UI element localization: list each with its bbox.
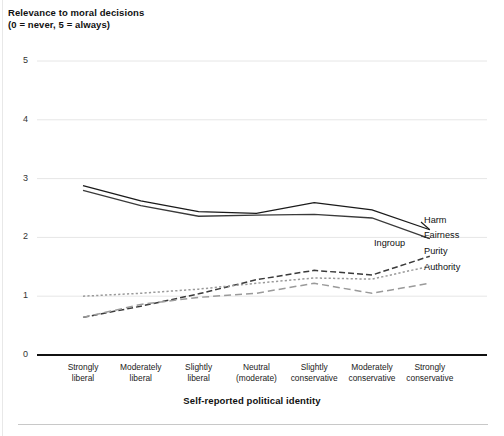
x-axis-tick-line: Strongly bbox=[391, 362, 469, 373]
footer-rule bbox=[18, 424, 488, 425]
series-label-purity: Purity bbox=[424, 246, 448, 256]
series-label-ingroup: Ingroup bbox=[374, 238, 405, 248]
x-axis-tick-line: conservative bbox=[391, 373, 469, 384]
series-line-fairness bbox=[83, 190, 430, 238]
chart-canvas: Relevance to moral decisions (0 = never,… bbox=[0, 0, 504, 436]
series-lines-group bbox=[83, 186, 430, 318]
y-axis-tick-label: 0 bbox=[14, 349, 28, 359]
gridlines-group bbox=[37, 61, 487, 355]
series-label-fairness: Fairness bbox=[424, 230, 459, 240]
series-line-authority bbox=[83, 283, 430, 317]
y-axis-tick-label: 4 bbox=[14, 114, 28, 124]
series-line-ingroup bbox=[83, 256, 430, 317]
series-label-authority: Authority bbox=[424, 262, 460, 272]
y-axis-tick-label: 3 bbox=[14, 173, 28, 183]
y-axis-tick-label: 2 bbox=[14, 231, 28, 241]
series-line-harm bbox=[83, 186, 430, 230]
x-axis-tick-label: Stronglyconservative bbox=[391, 362, 469, 383]
x-axis-title: Self-reported political identity bbox=[0, 395, 504, 406]
series-label-harm: Harm bbox=[424, 215, 446, 225]
y-axis-tick-label: 5 bbox=[14, 55, 28, 65]
y-axis-tick-label: 1 bbox=[14, 290, 28, 300]
